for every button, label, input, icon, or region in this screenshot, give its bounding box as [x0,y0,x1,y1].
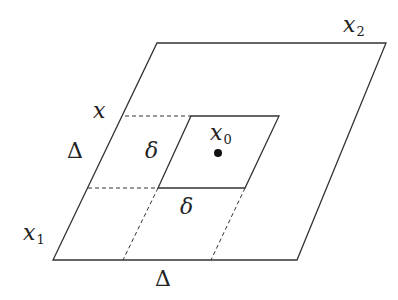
label-x0: x0 [210,122,232,144]
label-x0-base: x [210,120,222,145]
dashed-right-diagonal [211,188,245,260]
label-x-base: x [93,98,105,123]
label-delta-bottom: Δ [155,268,171,290]
label-x0-sub: 0 [223,132,231,147]
label-x1: x1 [23,222,45,244]
label-x: x [93,100,105,122]
label-small-delta-bottom: δ [180,196,193,218]
label-delta-left: Δ [67,140,83,162]
label-x1-base: x [23,220,35,245]
diagram-canvas: x2 x x0 x1 Δ Δ δ δ [0,0,398,300]
label-x1-sub: 1 [36,232,44,247]
diagram-lines [0,0,398,300]
label-x2-base: x [343,12,355,37]
label-small-delta-left: δ [145,140,158,162]
label-x2-sub: 2 [356,24,364,39]
label-x2: x2 [343,14,365,36]
point-x0 [214,149,222,157]
dashed-left-diagonal [123,188,158,260]
